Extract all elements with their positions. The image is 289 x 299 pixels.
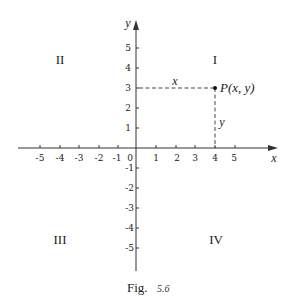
coordinate-plane: -5 -4 -3 -2 -1 0 1 2 3 4 5 x 5 4 3 2 1 -… xyxy=(0,0,289,299)
x-tick-label: -4 xyxy=(56,153,65,163)
quadrant-label-ii: II xyxy=(56,52,65,67)
y-tick-label: 5 xyxy=(125,43,131,53)
x-tick-label: 1 xyxy=(153,153,159,163)
x-tick-label: 4 xyxy=(212,153,218,163)
x-tick-label: -5 xyxy=(36,153,45,163)
x-tick-label: 2 xyxy=(174,153,180,163)
x-tick-label: 3 xyxy=(192,153,198,163)
x-tick-label: -3 xyxy=(75,153,84,163)
origin-label: 0 xyxy=(127,153,133,163)
y-axis-arrow-icon xyxy=(133,20,139,30)
y-tick-label: 3 xyxy=(125,83,131,93)
figure-caption-label: Fig. xyxy=(127,280,148,295)
point-p-label: P(x, y) xyxy=(219,80,255,95)
y-tick-label: 2 xyxy=(125,103,131,113)
y-tick-label: 1 xyxy=(125,123,131,133)
x-axis-label: x xyxy=(270,151,277,165)
horizontal-segment-label: x xyxy=(171,74,178,88)
vertical-segment-label: y xyxy=(218,115,225,129)
y-tick-label: -5 xyxy=(125,243,134,253)
y-tick-label: -4 xyxy=(125,223,134,233)
quadrant-label-iv: IV xyxy=(209,232,223,247)
quadrant-label-i: I xyxy=(213,52,217,67)
quadrant-label-iii: III xyxy=(54,232,67,247)
y-tick-label: 4 xyxy=(125,63,131,73)
x-tick-label: -2 xyxy=(95,153,104,163)
y-tick-label: -2 xyxy=(125,183,134,193)
x-tick-label: 5 xyxy=(231,153,237,163)
y-tick-label: -1 xyxy=(125,163,134,173)
y-tick-label: -3 xyxy=(125,203,134,213)
y-axis-label: y xyxy=(124,16,131,30)
figure-caption-number: 5.6 xyxy=(157,283,170,294)
x-tick-label: -1 xyxy=(113,153,122,163)
point-p-marker xyxy=(213,86,217,90)
